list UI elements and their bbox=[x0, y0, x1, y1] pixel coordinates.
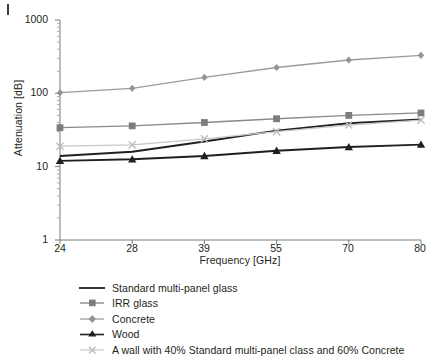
line-icon bbox=[78, 281, 108, 295]
chart-svg bbox=[0, 0, 445, 272]
series-2 bbox=[57, 52, 424, 97]
series-0 bbox=[60, 119, 421, 155]
y-tick-label-1000: 1000 bbox=[8, 13, 48, 25]
axis-lines bbox=[60, 20, 421, 240]
x-tick-label-24: 24 bbox=[43, 242, 77, 254]
legend-item-concrete: Concrete bbox=[78, 311, 438, 327]
x-tick-label-28: 28 bbox=[115, 242, 149, 254]
data-series-layer bbox=[56, 52, 425, 164]
legend-item-standard-glass: Standard multi-panel glass bbox=[78, 280, 438, 296]
legend-label-wall-mix: A wall with 40% Standard multi-panel cla… bbox=[108, 344, 404, 356]
legend-label-concrete: Concrete bbox=[108, 313, 155, 325]
diamond-marker-icon bbox=[78, 312, 108, 326]
legend-item-irr-glass: IRR glass bbox=[78, 296, 438, 312]
x-axis-title: Frequency [GHz] bbox=[150, 254, 330, 266]
x-tick-label-55: 55 bbox=[259, 242, 293, 254]
square-marker-icon bbox=[78, 296, 108, 310]
x-tick-label-80: 80 bbox=[403, 242, 437, 254]
legend-item-wall-mix: A wall with 40% Standard multi-panel cla… bbox=[78, 342, 438, 358]
figure-container: 1000 100 10 1 24 28 39 55 70 80 Attenuat… bbox=[0, 0, 445, 360]
legend-label-irr-glass: IRR glass bbox=[108, 297, 158, 309]
x-marker-icon bbox=[78, 343, 108, 357]
legend-label-wood: Wood bbox=[108, 328, 139, 340]
chart-legend: Standard multi-panel glass IRR glass Con… bbox=[78, 280, 438, 358]
legend-item-wood: Wood bbox=[78, 327, 438, 343]
y-axis-title: Attenuation [dB] bbox=[12, 53, 24, 183]
x-tick-label-39: 39 bbox=[187, 242, 221, 254]
series-1 bbox=[57, 110, 425, 132]
y-tick-label-1: 1 bbox=[8, 233, 48, 245]
chart-plot-area: 1000 100 10 1 24 28 39 55 70 80 Attenuat… bbox=[0, 0, 445, 272]
x-tick-label-70: 70 bbox=[331, 242, 365, 254]
triangle-marker-icon bbox=[78, 327, 108, 341]
legend-label-standard-glass: Standard multi-panel glass bbox=[108, 282, 238, 294]
